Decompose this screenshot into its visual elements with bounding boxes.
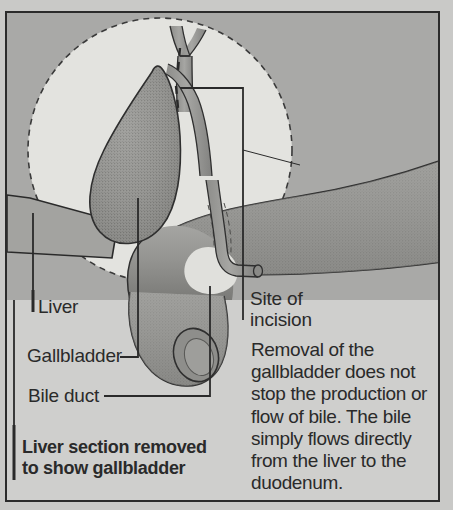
label-gallbladder: Gallbladder <box>27 345 122 366</box>
caption-liver-section-removed: Liver section removed to show gallbladde… <box>22 437 207 479</box>
label-site-of-incision: Site of incision <box>250 288 312 331</box>
figure-root: Liver Gallbladder Bile duct Site of inci… <box>0 0 453 510</box>
body-paragraph: Removal of the gallbladder does not stop… <box>251 339 427 495</box>
label-liver: Liver <box>38 296 78 317</box>
label-bile-duct: Bile duct <box>28 385 99 406</box>
